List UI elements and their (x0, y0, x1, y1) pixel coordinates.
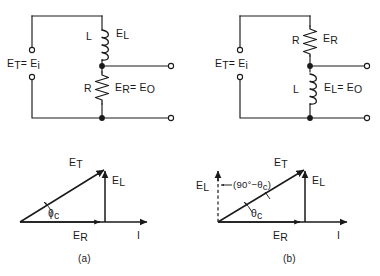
phasor-a-current-label: I (137, 229, 140, 241)
phasor-b-complement-annotation: (90°−θc) (233, 179, 271, 192)
figure-root: ET= Ei L EL R ER= EO (0, 0, 380, 276)
circuit-b-EL-sub2: O (354, 83, 362, 95)
circuit-a-ER-E: E (115, 81, 122, 93)
svg-text:ER: ER (323, 32, 338, 46)
circuit-a-inductor-voltage-label: EL (116, 27, 129, 41)
circuit-a-resistor-voltage-label: ER= EO (115, 81, 155, 95)
circuit-b-output-terminal-bottom (364, 115, 369, 120)
panel-a-caption: (a) (78, 253, 91, 264)
circuit-b-EL-eq: = E (337, 81, 354, 93)
circuit-a-ER-sub2: O (147, 83, 155, 95)
circuit-a-output-terminal-bottom (168, 115, 173, 120)
circuit-a-inductor-designator: L (86, 30, 92, 42)
svg-text:ET: ET (69, 156, 83, 170)
circuit-a-EL-sub: L (123, 29, 129, 41)
circuit-b-EL-E: E (324, 81, 331, 93)
phasor-a-ET-E: E (69, 156, 76, 168)
phasor-a-angle-label: θc (48, 207, 60, 221)
circuit-b-resistor-symbol (304, 26, 317, 56)
circuit-b-input-terminal-bottom (237, 74, 242, 79)
phasor-b-ER-label: ER (273, 229, 288, 243)
phasor-b-ELref-sub: L (203, 181, 209, 193)
phasor-b-complement-open: (90°− (233, 179, 258, 190)
circuit-b-input-terminal-top (237, 47, 242, 52)
circuit-b-input-label: ET= Ei (215, 57, 248, 71)
svg-text:ET= Ei: ET= Ei (215, 57, 248, 71)
phasor-b-ET-E: E (274, 156, 281, 168)
circuit-a: ET= Ei L EL R ER= EO (7, 16, 174, 121)
phasor-a-ET-vector (20, 170, 104, 222)
phasor-b-angle-label: θc (251, 207, 263, 221)
svg-text:EL= EO: EL= EO (324, 81, 362, 95)
svg-text:θc: θc (48, 207, 60, 221)
svg-text:θc: θc (251, 207, 263, 221)
circuit-a-resistor-designator: R (84, 82, 92, 94)
phasor-a-ER-E: E (73, 229, 80, 241)
circuit-a-ER-eq: = E (130, 81, 147, 93)
circuit-b-ER-E: E (323, 32, 330, 44)
circuit-a-inductor-symbol (102, 30, 108, 60)
svg-text:ER: ER (273, 229, 288, 243)
phasor-b-EL-label: EL (312, 174, 325, 188)
circuit-a-ER-sub: R (122, 83, 130, 95)
circuit-a-input-label-eq: = E (21, 57, 38, 69)
phasor-b-ET-label: ET (274, 156, 288, 170)
svg-text:ER= EO: ER= EO (115, 81, 155, 95)
circuit-a-EL-E: E (116, 27, 123, 39)
circuit-b-resistor-voltage-label: ER (323, 32, 338, 46)
svg-text:ET: ET (274, 156, 288, 170)
phasor-b-ET-sub: T (281, 158, 288, 170)
phasor-b: θc (90°−θc) EL ET EL ER (196, 156, 347, 264)
circuit-a-input-label: ET= Ei (7, 57, 40, 71)
circuit-b-input-label-sub-i: i (246, 59, 249, 71)
svg-text:EL: EL (116, 27, 129, 41)
phasor-a-EL-E: E (112, 174, 119, 186)
phasor-b-ELref-E: E (196, 179, 203, 191)
phasor-a-ET-label: ET (69, 156, 83, 170)
phasor-b-theta-sub: c (257, 209, 262, 221)
svg-text:ER: ER (73, 229, 88, 243)
circuit-b-input-label-eq: = E (229, 57, 246, 69)
circuit-a-input-terminal-bottom (29, 74, 34, 79)
phasor-a-theta-sub: c (54, 209, 59, 221)
phasor-b-ER-sub: R (280, 231, 288, 243)
panel-b-caption: (b) (283, 253, 296, 264)
rl-filter-figure: ET= Ei L EL R ER= EO (0, 0, 380, 276)
phasor-a-ER-label: ER (73, 229, 88, 243)
phasor-b-ER-E: E (273, 229, 280, 241)
phasor-b-EL-sub: L (319, 176, 325, 188)
phasor-a-ER-sub: R (80, 231, 88, 243)
svg-text:EL: EL (196, 179, 209, 193)
circuit-a-input-terminal-top (29, 47, 34, 52)
svg-text:ET= Ei: ET= Ei (7, 57, 40, 71)
phasor-b-EL-E: E (312, 174, 319, 186)
phasor-a-EL-label: EL (112, 174, 125, 188)
circuit-a-resistor-symbol (96, 72, 109, 104)
phasor-b-EL-reference-label: EL (196, 179, 209, 193)
circuit-b-output-terminal-top (364, 63, 369, 68)
phasor-b-complement-close: ) (268, 179, 271, 190)
circuit-b-inductor-voltage-label: EL= EO (324, 81, 362, 95)
svg-text:EL: EL (312, 174, 325, 188)
circuit-a-output-terminal-top (168, 63, 173, 68)
svg-text:(90°−θc): (90°−θc) (233, 179, 271, 192)
phasor-a: θc ET EL ER I (a) (20, 156, 147, 264)
svg-text:EL: EL (112, 174, 125, 188)
circuit-b-input-label-E: E (215, 57, 222, 69)
circuit-a-input-label-sub-i: i (38, 59, 41, 71)
phasor-a-ET-sub: T (76, 158, 83, 170)
phasor-b-complement-tick (265, 192, 270, 199)
circuit-b-inductor-symbol (310, 74, 316, 104)
circuit-b: ET= Ei R ER L EL= EO (215, 16, 370, 121)
circuit-b-resistor-designator: R (292, 34, 300, 46)
circuit-b-inductor-designator: L (293, 83, 299, 95)
circuit-b-left-rail-lower (240, 80, 310, 118)
phasor-a-EL-sub: L (119, 176, 125, 188)
phasor-b-current-label: I (337, 229, 340, 241)
circuit-a-input-label-E: E (7, 57, 14, 69)
circuit-b-ER-sub: R (330, 34, 338, 46)
